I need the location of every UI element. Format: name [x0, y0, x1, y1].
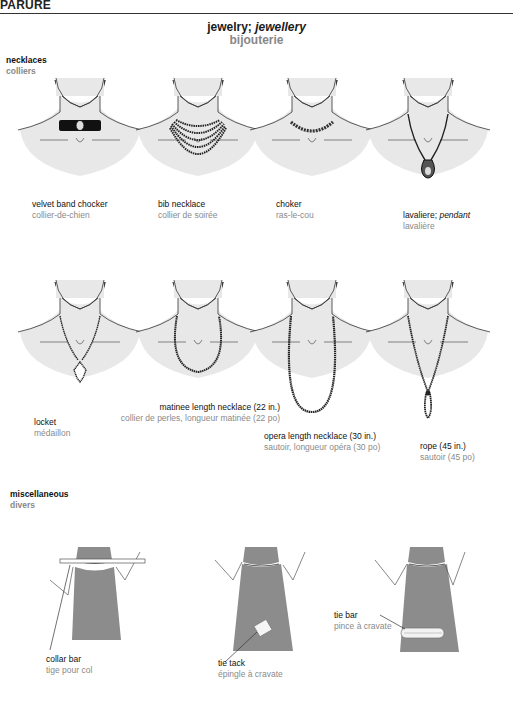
collar-bar-illustration	[40, 540, 150, 670]
section-miscellaneous-title: miscellaneous	[10, 489, 69, 499]
label-lavaliere: lavaliere; pendant lavalière	[403, 210, 470, 232]
label-opera-necklace: opera length necklace (30 in.) sautoir, …	[264, 431, 380, 453]
page-header: PARURE	[0, 0, 513, 14]
label-locket: locket médaillon	[34, 417, 70, 439]
rope-necklace-illustration	[378, 282, 478, 432]
velvet-band-choker-illustration	[30, 80, 130, 190]
tie-bar-illustration	[375, 540, 485, 670]
matinee-necklace-illustration	[148, 282, 248, 392]
section-miscellaneous-subtitle: divers	[10, 500, 35, 510]
label-tie-bar: tie bar pince à cravate	[334, 610, 392, 632]
label-choker: choker ras-le-cou	[276, 199, 314, 221]
label-matinee-necklace: matinee length necklace (22 in.) collier…	[110, 402, 280, 424]
locket-illustration	[30, 282, 130, 412]
tie-tack-illustration	[205, 540, 315, 660]
bib-necklace-illustration	[148, 80, 248, 190]
label-velvet-band-choker: velvet band chocker collier-de-chien	[32, 199, 108, 221]
page-title: jewelry; jewellery	[0, 20, 513, 34]
label-collar-bar: collar bar tige pour col	[46, 654, 92, 676]
opera-necklace-illustration	[262, 282, 362, 422]
choker-illustration	[262, 80, 362, 190]
label-rope: rope (45 in.) sautoir (45 po)	[420, 441, 475, 463]
lavaliere-illustration	[378, 80, 478, 190]
section-necklaces-title: necklaces	[6, 55, 47, 65]
header-title: PARURE	[0, 0, 51, 12]
label-tie-tack: tie tack épingle à cravate	[218, 658, 283, 680]
section-necklaces-subtitle: colliers	[6, 66, 36, 76]
page-subtitle: bijouterie	[0, 33, 513, 47]
label-bib-necklace: bib necklace collier de soirée	[158, 199, 218, 221]
